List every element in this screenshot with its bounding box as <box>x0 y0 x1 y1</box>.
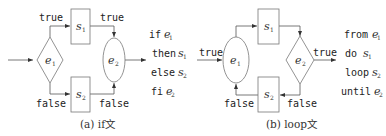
edge-e1-s2-a <box>50 83 70 94</box>
node-e2-var-a: e <box>108 54 115 67</box>
node-e1-var-b: e <box>230 54 237 67</box>
edge-s2-e2-a <box>90 83 114 94</box>
code-sub: 2 <box>171 91 175 98</box>
label-true-left-a: true <box>39 12 63 23</box>
edge-s1-e2-b <box>279 26 300 36</box>
label-true-out-b: true <box>313 47 337 58</box>
node-s2-sub-a: 2 <box>82 94 86 101</box>
code-kw: do <box>345 48 357 59</box>
label-false-right-b: false <box>287 98 317 109</box>
node-e2-var-b: e <box>295 54 302 67</box>
code-sub: 2 <box>379 91 383 98</box>
code-kw: from <box>344 29 368 40</box>
diagram-loop: e 1 s 1 s 2 e 2 true true false false fr… <box>197 9 383 130</box>
label-false-left-b: false <box>224 98 254 109</box>
node-s2-sub-b: 2 <box>270 94 274 101</box>
code-sub: 1 <box>183 53 187 60</box>
code-block-a: if e 1 then s 1 else s 2 fi e 2 <box>149 28 187 98</box>
flowchart-figure: e 1 s 1 s 2 e 2 true true false false if… <box>0 0 386 136</box>
code-sub: 1 <box>377 34 381 41</box>
edge-e1-s1-a <box>50 26 70 37</box>
caption-a: (a) if文 <box>80 118 116 130</box>
code-kw: loop <box>345 67 369 78</box>
code-sub: 1 <box>169 34 173 41</box>
code-sub: 1 <box>368 53 372 60</box>
node-e1-sub-b: 1 <box>237 60 241 67</box>
label-false-right-a: false <box>99 98 129 109</box>
code-block-b: from e 1 do s 1 loop s 2 until e 2 <box>341 28 383 98</box>
code-kw: fi <box>151 86 163 97</box>
diagram-if: e 1 s 1 s 2 e 2 true true false false if… <box>8 9 187 130</box>
edge-s2-e1-b <box>236 84 258 95</box>
code-sub: 2 <box>377 72 381 79</box>
code-kw: until <box>341 86 371 97</box>
edge-e1-s1-b <box>236 26 257 37</box>
code-sub: 2 <box>183 72 187 79</box>
node-s1-sub-b: 1 <box>270 26 274 33</box>
caption-b: (b) loop文 <box>266 118 318 130</box>
label-true-in-b: true <box>199 47 223 58</box>
node-e1-var-a: e <box>45 54 52 67</box>
label-true-right-a: true <box>100 12 124 23</box>
label-false-left-a: false <box>36 98 66 109</box>
code-kw: else <box>151 67 175 78</box>
edge-s1-e2-a <box>90 26 114 37</box>
code-kw: then <box>152 48 176 59</box>
node-e1-sub-a: 1 <box>52 60 56 67</box>
node-s1-sub-a: 1 <box>82 26 86 33</box>
code-kw: if <box>149 29 161 40</box>
node-e2-sub-b: 2 <box>302 60 306 67</box>
node-e2-sub-a: 2 <box>115 60 119 67</box>
edge-e2-s2-b <box>280 84 300 95</box>
